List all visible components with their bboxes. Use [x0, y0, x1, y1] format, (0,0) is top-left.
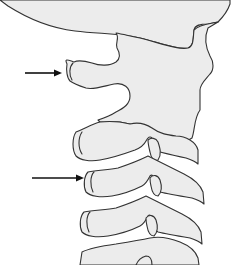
vertebra-c5	[80, 196, 202, 244]
c5-articular-process	[146, 216, 157, 236]
lower-arrow-head-icon	[76, 175, 84, 182]
c4-articular-process	[150, 176, 161, 196]
upper-arrow-head-icon	[54, 70, 62, 77]
cervical-spine-diagram	[0, 0, 235, 265]
lower-arrow	[32, 175, 84, 182]
upper-arrow	[25, 70, 62, 77]
